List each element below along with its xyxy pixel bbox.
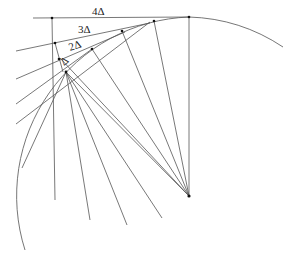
tangent-line-4 <box>33 17 189 18</box>
point-4 <box>51 17 54 20</box>
vertical-line <box>52 18 55 200</box>
point-1 <box>153 20 156 23</box>
label-2-delta: 2Δ <box>67 38 83 53</box>
tangent-line-1 <box>16 49 92 104</box>
circle-arc <box>17 17 283 250</box>
label-3-delta: 3Δ <box>78 23 91 35</box>
point-top <box>188 16 191 19</box>
radius-2 <box>122 31 189 196</box>
point-2 <box>121 30 124 33</box>
fan-line-1 <box>66 72 90 220</box>
radius-4 <box>66 72 189 196</box>
label-4-delta: 4Δ <box>92 5 105 17</box>
fan-line-2 <box>66 72 127 225</box>
center-point <box>187 194 190 197</box>
fan-line-4 <box>22 72 66 168</box>
point-3 <box>91 48 94 51</box>
radius-5 <box>60 58 189 196</box>
point-7 <box>65 71 68 74</box>
tangent-line-2 <box>16 32 125 79</box>
geometric-diagram: 4Δ 3Δ 2Δ Δ <box>0 0 303 265</box>
point-5 <box>54 42 57 45</box>
